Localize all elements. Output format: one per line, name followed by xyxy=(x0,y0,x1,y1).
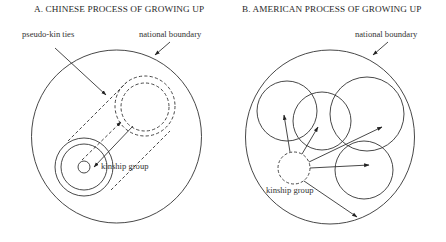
peer-circle-3 xyxy=(330,77,404,151)
national-boundary-circle-a xyxy=(32,50,202,223)
kinship-group-core-a xyxy=(78,161,90,173)
pseudo-kin-tube-upper xyxy=(68,83,126,141)
peer-circle-4 xyxy=(335,141,393,199)
arrow-to-circle-3 xyxy=(309,127,382,162)
pseudo-kin-ties-label: pseudo-kin ties xyxy=(22,29,74,39)
national-boundary-pointer-arrow-a xyxy=(155,42,170,55)
arrow-to-circle-1 xyxy=(284,115,290,152)
national-boundary-label-a: national boundary xyxy=(139,29,201,39)
national-boundary-pointer-arrow-b xyxy=(373,42,388,55)
pseudo-kin-inner-dashed-circle xyxy=(121,83,169,131)
arrow-to-circle-4 xyxy=(310,165,369,168)
panel-b-diagram xyxy=(246,42,415,224)
kinship-group-label-a: kinship group xyxy=(101,161,149,171)
pseudo-kin-pointer-arrow xyxy=(55,48,106,95)
national-boundary-circle-b xyxy=(246,50,415,224)
kinship-group-dashed-circle-b xyxy=(278,152,310,184)
panel-a-title: A. CHINESE PROCESS OF GROWING UP xyxy=(34,4,204,14)
pseudo-kin-outer-dashed-circle xyxy=(115,76,175,136)
outward-dashed-arrow xyxy=(82,122,121,160)
panel-a-diagram xyxy=(32,42,202,223)
arrow-to-circle-2 xyxy=(302,127,318,154)
national-boundary-label-b: national boundary xyxy=(355,29,417,39)
kinship-group-label-b: kinship group xyxy=(266,185,314,195)
panel-b-title: B. AMERICAN PROCESS OF GROWING UP xyxy=(242,4,421,14)
